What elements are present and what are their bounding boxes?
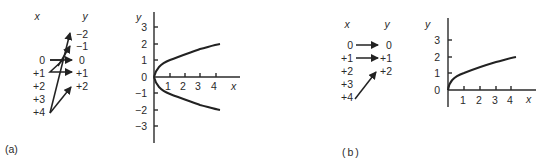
y-column-header: y [81,10,88,22]
y-tick-label: 1 [141,54,147,66]
y-tick-label: 3 [141,21,147,33]
x-value: 0 [39,54,45,66]
y-axis-label: y [424,18,431,30]
y-tick-label: 2 [141,38,147,50]
panel-a-graph: y x 3 2 1 0 −1 −2 −3 1 2 3 4 [135,11,240,143]
y-value: +1 [380,52,392,64]
panel-a-mapping: x y 0 +1 +2 +3 +4 −2 −1 0 +1 +2 (a) [5,10,88,155]
x-tick-label: 3 [492,94,498,106]
panel-b-mapping: x y 0 +1 +2 +3 +4 0 +1 +2 (b) [341,18,392,158]
y-tick-label: 0 [434,84,440,96]
x-column-header: x [33,10,40,22]
x-tick-label: 2 [180,80,186,92]
panel-a-caption: (a) [5,143,18,155]
x-tick-label: 1 [165,80,171,92]
x-value: +2 [341,65,353,77]
y-tick-label: 3 [434,34,440,46]
y-value: +2 [76,80,88,92]
x-column-header: x [343,18,350,30]
x-value: +3 [341,78,353,90]
figure-canvas: x y 0 +1 +2 +3 +4 −2 −1 0 +1 +2 (a) y x [0,0,558,168]
y-column-header: y [383,18,390,30]
x-value: +1 [341,52,353,64]
y-value: −2 [76,28,88,40]
panel-b-graph: y x 3 2 1 0 1 2 3 4 [424,18,536,107]
y-value: 0 [79,54,85,66]
y-value: +1 [76,67,88,79]
y-tick-label: 0 [141,71,147,83]
y-tick-label: −3 [135,120,147,132]
x-tick-label: 2 [476,94,482,106]
x-value: +2 [33,80,45,92]
mapping-arrow [355,72,376,99]
x-tick-label: 1 [460,94,466,106]
y-value: −1 [76,40,88,52]
x-tick-label: 3 [195,80,201,92]
y-tick-label: 2 [434,51,440,63]
y-tick-label: 1 [434,67,440,79]
y-value: 0 [386,39,392,51]
x-axis-label: x [230,80,237,92]
x-tick-label: 4 [211,80,217,92]
panel-b-caption: (b) [342,146,361,158]
x-value: +4 [341,91,353,103]
y-value: +2 [380,65,392,77]
x-value: 0 [347,39,353,51]
x-value: +3 [33,93,45,105]
curve-sqrt [448,57,516,90]
x-value: +4 [33,106,45,118]
x-tick-label: 4 [507,94,513,106]
x-axis-label: x [525,93,532,105]
x-value: +1 [33,67,45,79]
y-tick-label: −1 [135,87,147,99]
curve-upper-branch [154,44,220,77]
y-tick-label: −2 [135,104,147,116]
